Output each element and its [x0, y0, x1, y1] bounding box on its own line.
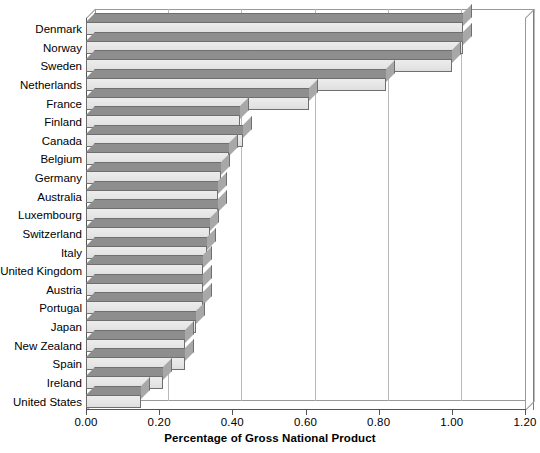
bar-top-face	[86, 311, 205, 320]
x-tick	[306, 410, 307, 415]
category-label-germany: Germany	[0, 172, 82, 184]
bar-top-face	[86, 162, 230, 171]
category-label-belgium: Belgium	[0, 153, 82, 165]
x-tick	[159, 410, 160, 415]
category-label-denmark: Denmark	[0, 23, 82, 35]
gridline-back	[534, 9, 535, 401]
category-label-new-zealand: New Zealand	[0, 340, 82, 352]
bar-top-face	[86, 255, 212, 264]
bar-top-face	[86, 88, 318, 97]
x-tick	[86, 410, 87, 415]
category-label-united-states: United States	[0, 396, 82, 408]
bar-top-face	[86, 348, 194, 357]
x-tick	[525, 410, 526, 415]
category-label-sweden: Sweden	[0, 60, 82, 72]
plot-right-wall	[525, 18, 534, 410]
bar-top-face	[86, 367, 172, 376]
bar-top-face	[86, 69, 395, 78]
bar-top-face	[86, 143, 238, 152]
category-label-spain: Spain	[0, 358, 82, 370]
x-tick-label: 0.60	[276, 416, 336, 428]
x-tick-label: 1.00	[422, 416, 482, 428]
category-label-austria: Austria	[0, 284, 82, 296]
x-tick	[452, 410, 453, 415]
bar-top-face	[86, 199, 227, 208]
x-tick	[232, 410, 233, 415]
bar-top-face	[86, 125, 252, 134]
category-label-netherlands: Netherlands	[0, 79, 82, 91]
category-label-luxembourg: Luxembourg	[0, 209, 82, 221]
category-label-united-kingdom: United Kingdom	[0, 265, 82, 277]
bar-top-face	[86, 106, 249, 115]
bar-front-face	[86, 395, 141, 408]
x-tick-label: 0.00	[56, 416, 116, 428]
bar-top-face	[86, 274, 212, 283]
bar-top-face	[86, 218, 219, 227]
category-label-australia: Australia	[0, 191, 82, 203]
x-tick-label: 0.80	[349, 416, 409, 428]
category-label-norway: Norway	[0, 42, 82, 54]
x-tick-label: 0.20	[129, 416, 189, 428]
x-tick	[379, 410, 380, 415]
bar-top-face	[86, 181, 227, 190]
x-tick-label: 1.20	[495, 416, 540, 428]
x-tick-label: 0.40	[202, 416, 262, 428]
bar-chart: 0.000.200.400.600.801.001.20 DenmarkNorw…	[0, 0, 540, 453]
bar-united-states	[86, 395, 141, 408]
x-axis-title: Percentage of Gross National Product	[0, 432, 540, 444]
bar-top-face	[86, 32, 472, 41]
bar-top-face	[86, 330, 194, 339]
category-label-japan: Japan	[0, 321, 82, 333]
bar-top-face	[86, 13, 472, 22]
bar-top-face	[86, 292, 212, 301]
category-label-finland: Finland	[0, 116, 82, 128]
category-label-switzerland: Switzerland	[0, 228, 82, 240]
category-label-ireland: Ireland	[0, 377, 82, 389]
category-label-portugal: Portugal	[0, 302, 82, 314]
bar-top-face	[86, 50, 461, 59]
category-label-italy: Italy	[0, 247, 82, 259]
category-label-france: France	[0, 98, 82, 110]
bar-top-face	[86, 237, 216, 246]
gridline-back	[461, 9, 462, 401]
category-label-canada: Canada	[0, 135, 82, 147]
